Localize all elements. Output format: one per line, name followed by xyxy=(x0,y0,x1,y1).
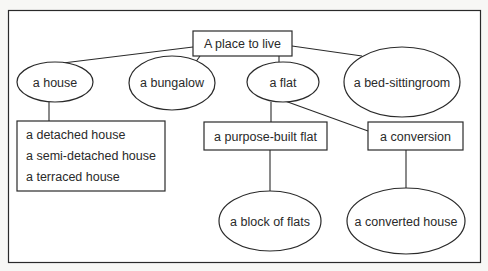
node-converted-house: a converted house xyxy=(347,188,465,254)
node-block-of-flats-label: a block of flats xyxy=(230,215,310,229)
place-to-live-diagram: A place to live a house a bungalow a fla… xyxy=(0,0,488,271)
node-block-of-flats: a block of flats xyxy=(219,191,321,251)
node-purpose-built-label: a purpose-built flat xyxy=(214,130,317,144)
node-house-label: a house xyxy=(33,76,78,90)
node-purpose-built: a purpose-built flat xyxy=(204,122,327,150)
house-type-detached: a detached house xyxy=(26,128,125,142)
node-root-label: A place to live xyxy=(204,37,281,51)
node-converted-house-label: a converted house xyxy=(355,215,458,229)
node-flat: a flat xyxy=(247,62,319,102)
house-type-semi-detached: a semi-detached house xyxy=(26,149,156,163)
house-type-terraced: a terraced house xyxy=(26,170,120,184)
node-house: a house xyxy=(17,62,93,102)
node-bungalow: a bungalow xyxy=(129,56,215,110)
node-bungalow-label: a bungalow xyxy=(140,76,205,90)
node-flat-label: a flat xyxy=(269,76,297,90)
node-house-types: a detached house a semi-detached house a… xyxy=(17,121,165,191)
node-bedsit-label: a bed-sittingroom xyxy=(354,76,451,90)
node-bedsit: a bed-sittingroom xyxy=(344,47,460,117)
node-conversion: a conversion xyxy=(368,122,463,150)
node-root: A place to live xyxy=(193,31,292,56)
node-conversion-label: a conversion xyxy=(380,130,451,144)
